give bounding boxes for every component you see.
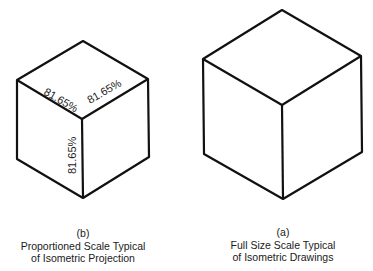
label-vertical-edge: 81.65% <box>66 136 78 174</box>
caption-a-line1: Full Size Scale Typical <box>203 239 363 252</box>
cube-full-size-scale <box>203 10 362 199</box>
caption-a-letter: (a) <box>203 226 363 239</box>
caption-b-line1: Proportioned Scale Typical <box>3 240 163 253</box>
label-top-left-edge: 81.65% <box>42 85 80 114</box>
caption-b-letter: (b) <box>3 227 163 240</box>
caption-a-line2: of Isometric Drawings <box>203 251 363 264</box>
caption-a: (a) Full Size Scale Typical of Isometric… <box>203 226 363 264</box>
caption-b-line2: of Isometric Projection <box>3 252 163 265</box>
cube-proportioned-scale <box>17 41 149 198</box>
caption-b: (b) Proportioned Scale Typical of Isomet… <box>3 227 163 265</box>
label-top-right-edge: 81.65% <box>85 77 123 106</box>
